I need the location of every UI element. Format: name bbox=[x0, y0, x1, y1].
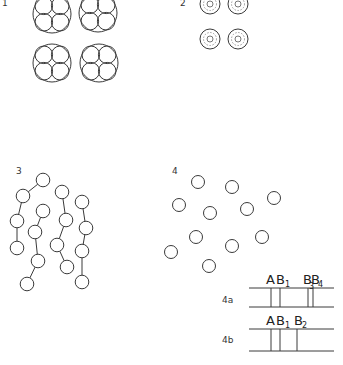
band-row-label: 4b bbox=[222, 335, 234, 345]
ring-outer bbox=[228, 29, 248, 49]
chain-link bbox=[83, 235, 85, 245]
cluster-outer-circle bbox=[80, 44, 118, 82]
marker-sub-1: 1 bbox=[285, 280, 290, 289]
chain-link bbox=[59, 226, 63, 238]
free-particle bbox=[190, 231, 203, 244]
chain-bead bbox=[16, 189, 30, 203]
chain-bead bbox=[60, 260, 74, 274]
chain-bead bbox=[55, 185, 69, 199]
panel-2-rings bbox=[200, 0, 248, 49]
panel-3-label: 3 bbox=[16, 166, 22, 176]
chain-bead bbox=[75, 275, 89, 289]
ring-core bbox=[235, 1, 241, 7]
chain-link bbox=[37, 217, 40, 225]
ring-outer bbox=[200, 29, 220, 49]
cluster-inner-circle bbox=[97, 12, 115, 30]
marker-label-a: A bbox=[266, 272, 275, 287]
panel-4-scatter bbox=[165, 176, 281, 273]
chain-link bbox=[28, 184, 37, 192]
cluster-inner-circle bbox=[81, 0, 99, 14]
marker-label-b1: B bbox=[276, 272, 285, 287]
band-row-4b: 4b A B 1 B 2 bbox=[222, 313, 334, 351]
free-particle bbox=[226, 240, 239, 253]
chain-link bbox=[30, 267, 35, 278]
free-particle bbox=[165, 246, 178, 259]
free-particle bbox=[256, 231, 269, 244]
chain-link bbox=[36, 239, 38, 254]
chain-bead bbox=[79, 221, 93, 235]
cluster-inner-circle bbox=[35, 46, 53, 64]
cluster-inner-circle bbox=[98, 46, 116, 64]
free-particle bbox=[268, 192, 281, 205]
band-row-label: 4a bbox=[222, 295, 233, 305]
chain-link bbox=[63, 199, 65, 214]
chain-bead bbox=[75, 195, 89, 209]
ring-dashed bbox=[232, 0, 245, 11]
cluster-inner-circle bbox=[81, 12, 99, 30]
cluster-inner-circle bbox=[82, 62, 100, 80]
cluster-outer-circle bbox=[79, 0, 117, 32]
free-particle bbox=[226, 181, 239, 194]
free-particle bbox=[204, 207, 217, 220]
chain-bead bbox=[59, 213, 73, 227]
figure-canvas: 1 2 3 4 4a A B 1 B 3 B 4 4b A B 1 B 2 bbox=[0, 0, 343, 365]
ring-core bbox=[235, 36, 241, 42]
chain-bead bbox=[31, 254, 45, 268]
ring-dashed bbox=[232, 33, 245, 46]
chain-bead bbox=[36, 204, 50, 218]
chain-bead bbox=[10, 214, 24, 228]
ring-dashed bbox=[204, 0, 217, 11]
cluster-inner-circle bbox=[35, 62, 53, 80]
chain-link bbox=[83, 209, 85, 222]
free-particle bbox=[192, 176, 205, 189]
band-row-4a: 4a A B 1 B 3 B 4 bbox=[222, 272, 334, 307]
free-particle bbox=[173, 199, 186, 212]
cluster-outer-circle bbox=[33, 44, 71, 82]
free-particle bbox=[241, 203, 254, 216]
chain-link bbox=[19, 203, 22, 215]
cluster-inner-circle bbox=[51, 13, 69, 31]
cluster-inner-circle bbox=[82, 46, 100, 64]
cluster-inner-circle bbox=[98, 62, 116, 80]
chain-bead bbox=[50, 238, 64, 252]
cluster-outer-circle bbox=[33, 0, 71, 33]
cluster-inner-circle bbox=[51, 62, 69, 80]
ring-core bbox=[207, 36, 213, 42]
chain-bead bbox=[20, 277, 34, 291]
panel-1-label: 1 bbox=[2, 0, 8, 8]
ring-dashed bbox=[204, 33, 217, 46]
panel-1-clusters bbox=[33, 0, 118, 82]
cluster-inner-circle bbox=[51, 46, 69, 64]
chain-link bbox=[60, 251, 64, 261]
cluster-inner-circle bbox=[35, 13, 53, 31]
panel-3-chains bbox=[10, 173, 93, 291]
chain-bead bbox=[36, 173, 50, 187]
free-particle bbox=[203, 260, 216, 273]
panel-2-label: 2 bbox=[180, 0, 186, 8]
chain-bead bbox=[28, 225, 42, 239]
cluster-inner-circle bbox=[97, 0, 115, 14]
marker-sub-2: 2 bbox=[302, 321, 307, 330]
ring-core bbox=[207, 1, 213, 7]
marker-sub-1: 1 bbox=[285, 321, 290, 330]
marker-label-a: A bbox=[266, 313, 275, 328]
panel-4-label: 4 bbox=[172, 166, 178, 176]
chain-bead bbox=[10, 241, 24, 255]
marker-sub-4: 4 bbox=[318, 280, 323, 289]
chain-bead bbox=[75, 244, 89, 258]
marker-label-b1: B bbox=[276, 313, 285, 328]
